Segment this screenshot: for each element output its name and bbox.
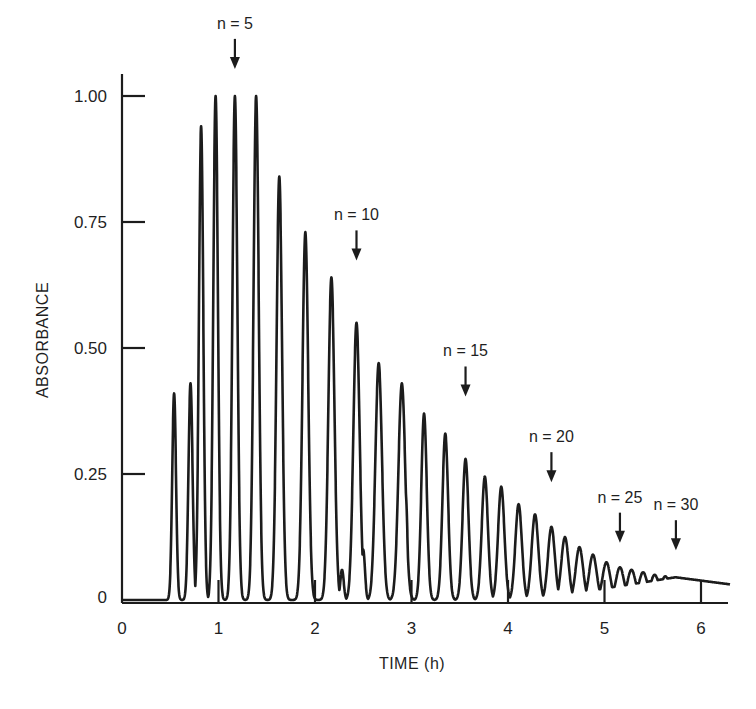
- arrow-down-icon: [351, 248, 361, 260]
- annotation-label: n = 30: [653, 496, 698, 513]
- chromatogram-chart: 00.250.500.751.00 0123456 ABSORBANCE TIM…: [0, 0, 756, 709]
- arrow-down-icon: [461, 384, 471, 396]
- arrow-down-icon: [546, 470, 556, 482]
- arrow-down-icon: [615, 531, 625, 543]
- annotation-label: n = 5: [217, 15, 253, 32]
- annotation-label: n = 20: [529, 428, 574, 445]
- annotation-label: n = 10: [334, 206, 379, 223]
- arrow-down-icon: [671, 538, 681, 550]
- annotation-label: n = 25: [597, 489, 642, 506]
- y-tick-label: 0.75: [74, 213, 107, 232]
- y-axis: 00.250.500.751.00: [74, 74, 145, 607]
- cycle-annotation: n = 15: [443, 342, 488, 396]
- y-tick-label: 0.50: [74, 339, 107, 358]
- x-tick-label: 1: [214, 619, 223, 638]
- cycle-annotation: n = 5: [217, 15, 253, 69]
- cycle-annotation: n = 20: [529, 428, 574, 482]
- cycle-annotations: n = 5n = 10n = 15n = 20n = 25n = 30: [217, 15, 699, 550]
- x-tick-label: 4: [503, 619, 512, 638]
- cycle-annotation: n = 25: [597, 489, 642, 543]
- x-axis-title: TIME (h): [379, 655, 445, 672]
- x-tick-label: 2: [310, 619, 319, 638]
- cycle-annotation: n = 10: [334, 206, 379, 260]
- cycle-annotation: n = 30: [653, 496, 698, 550]
- y-tick-label: 0: [98, 588, 107, 607]
- y-tick-label: 0.25: [74, 465, 107, 484]
- absorbance-trace: [122, 96, 730, 600]
- x-tick-label: 5: [600, 619, 609, 638]
- arrow-down-icon: [230, 57, 240, 69]
- x-tick-label: 0: [117, 619, 126, 638]
- y-axis-title: ABSORBANCE: [34, 282, 51, 398]
- x-tick-label: 6: [696, 619, 705, 638]
- annotation-label: n = 15: [443, 342, 488, 359]
- x-tick-label: 3: [407, 619, 416, 638]
- y-tick-label: 1.00: [74, 87, 107, 106]
